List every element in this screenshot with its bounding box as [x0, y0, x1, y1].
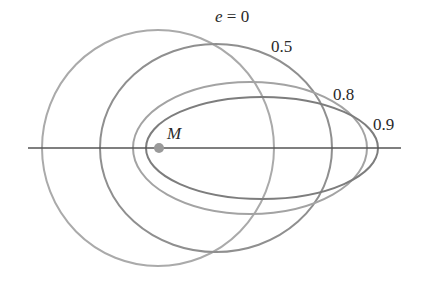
orbit-label-0-5: 0.5 [271, 37, 292, 56]
orbit-label-0: e = 0 [215, 7, 249, 26]
orbit-label-0-8: 0.8 [333, 85, 354, 104]
focus-label: M [166, 124, 182, 143]
orbit-diagram: M e = 00.50.80.9 [0, 0, 427, 287]
focus-point-m [154, 143, 164, 153]
orbit-label-0-9: 0.9 [373, 115, 394, 134]
